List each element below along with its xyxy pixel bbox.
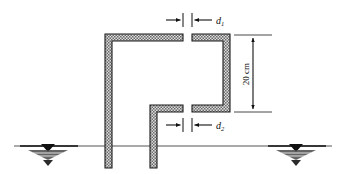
dimension-label-d1: d1 (216, 15, 224, 28)
water-table-right (268, 144, 326, 166)
water-table-left (20, 144, 78, 166)
engineering-diagram: d1 d2 20 cm (0, 0, 346, 174)
dimension-label-d2: d2 (216, 120, 225, 133)
left-tube (105, 34, 183, 168)
middle-tube (150, 105, 183, 168)
dimension-d1: d1 (166, 13, 224, 27)
dimension-height: 20 cm (234, 35, 272, 112)
figure-canvas: d1 d2 20 cm (0, 0, 346, 174)
right-channel (192, 34, 230, 112)
dimension-d2: d2 (166, 118, 225, 132)
dimension-label-height: 20 cm (241, 63, 251, 85)
